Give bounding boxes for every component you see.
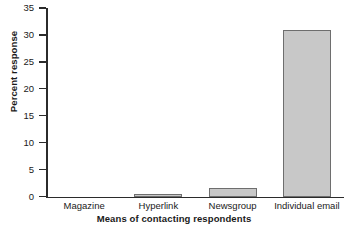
x-axis-line (46, 197, 344, 199)
x-axis-label-hyperlink: Hyperlink (121, 200, 195, 211)
y-axis-tick-label: 15 (0, 111, 34, 121)
y-axis-tick-label: 35 (0, 3, 34, 13)
bar-individual-email (283, 30, 331, 197)
y-axis-tick-label: 25 (0, 57, 34, 67)
x-axis-label-newsgroup: Newsgroup (196, 200, 270, 211)
y-axis-tick (39, 7, 46, 8)
y-axis-tick-label: 0 (0, 192, 34, 202)
x-axis-label-individual-email: Individual email (270, 200, 344, 211)
y-axis-tick-label: 5 (0, 165, 34, 175)
y-axis-tick (39, 88, 46, 89)
y-axis-tick-label: 20 (0, 84, 34, 94)
y-axis-tick (39, 169, 46, 170)
bar-chart: Percent response 05101520253035 Magazine… (0, 0, 348, 231)
y-axis-tick-label: 10 (0, 138, 34, 148)
x-axis-title: Means of contacting respondents (0, 213, 348, 224)
y-axis-tick (39, 142, 46, 143)
y-axis-tick (39, 61, 46, 62)
y-axis-tick (39, 196, 46, 197)
bar-hyperlink (134, 194, 182, 197)
y-axis-tick (39, 34, 46, 35)
bar-newsgroup (209, 188, 257, 197)
x-axis-label-magazine: Magazine (47, 200, 121, 211)
plot-area (47, 8, 344, 197)
y-axis-tick (39, 115, 46, 116)
y-axis-tick-label: 30 (0, 30, 34, 40)
